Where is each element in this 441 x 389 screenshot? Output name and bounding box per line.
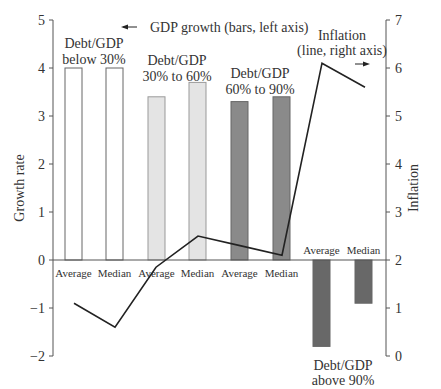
bar-6: [273, 97, 290, 260]
bar-7: [313, 260, 330, 346]
group-label-line2: above 90%: [312, 373, 375, 388]
left-tick-label: 1: [38, 205, 45, 220]
group-label-line1: Debt/GDP: [64, 36, 123, 51]
right-tick-label: 0: [395, 349, 402, 364]
right-axis: 76543210: [386, 13, 402, 364]
gdp-growth-bars: [65, 68, 372, 346]
line-legend-annotation: Inflation (line, right axis): [297, 28, 387, 67]
left-tick-label: 3: [38, 109, 45, 124]
left-tick-label: 4: [38, 61, 45, 76]
category-label: Average: [303, 244, 340, 256]
bars-legend-text: GDP growth (bars, left axis): [150, 20, 309, 36]
left-tick-label: 0: [38, 253, 45, 268]
left-tick-label: −2: [30, 349, 45, 364]
group-label-line1: Debt/GDP: [313, 358, 372, 373]
right-tick-label: 7: [395, 13, 402, 28]
right-tick-label: 5: [395, 109, 402, 124]
bars-legend-annotation: GDP growth (bars, left axis): [121, 20, 309, 36]
left-tick-label: 5: [38, 13, 45, 28]
right-tick-label: 3: [395, 205, 402, 220]
right-tick-label: 4: [395, 157, 402, 172]
left-axis-label: Growth rate: [12, 154, 27, 221]
category-labels: AverageMedianAverageMedianAverageMedianA…: [55, 244, 381, 279]
bar-5: [231, 102, 248, 260]
bar-2: [106, 68, 123, 260]
right-tick-label: 6: [395, 61, 402, 76]
left-axis: 543210−1−2: [30, 13, 53, 364]
dual-axis-chart: AverageMedianAverageMedianAverageMedianA…: [0, 0, 441, 389]
category-label: Average: [138, 267, 175, 279]
category-label: Median: [181, 267, 215, 279]
category-label: Average: [221, 267, 258, 279]
bar-4: [189, 82, 206, 260]
group-label-line1: Debt/GDP: [230, 66, 289, 81]
bar-3: [148, 97, 165, 260]
bar-8: [355, 260, 372, 303]
left-arrow-icon: [121, 25, 128, 30]
group-label-line2: 30% to 60%: [142, 69, 212, 84]
right-tick-label: 2: [395, 253, 402, 268]
right-arrow-icon: [363, 62, 370, 67]
category-label: Median: [265, 267, 299, 279]
group-label-line2: below 30%: [62, 52, 126, 67]
line-legend-text-2: (line, right axis): [297, 43, 387, 59]
group-label-line2: 60% to 90%: [225, 82, 295, 97]
group-label-line1: Debt/GDP: [147, 53, 206, 68]
line-legend-text-1: Inflation: [318, 28, 366, 43]
category-label: Median: [347, 244, 381, 256]
bar-1: [65, 68, 82, 260]
right-axis-label: Inflation: [406, 164, 421, 212]
left-tick-label: −1: [30, 301, 45, 316]
category-label: Average: [55, 267, 92, 279]
left-tick-label: 2: [38, 157, 45, 172]
right-tick-label: 1: [395, 301, 402, 316]
category-label: Median: [98, 267, 132, 279]
